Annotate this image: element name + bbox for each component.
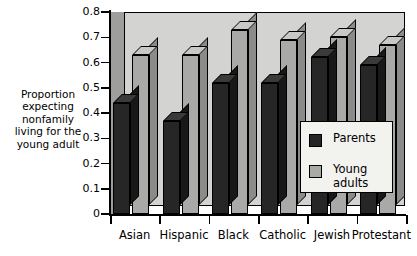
bar-parents-hispanic bbox=[163, 112, 189, 214]
y-axis-tick bbox=[101, 87, 109, 89]
bar-front bbox=[212, 83, 229, 214]
bar-front bbox=[113, 103, 130, 214]
bar-parents-asian bbox=[113, 94, 139, 214]
chart-figure: Proportion expecting nonfamily living fo… bbox=[0, 0, 417, 256]
y-axis-tick-label: 0.8 bbox=[66, 6, 100, 17]
bar-side bbox=[248, 12, 257, 205]
y-axis-tick bbox=[101, 62, 109, 64]
y-axis-tick-labels: 00.10.20.30.40.50.60.70.8 bbox=[60, 0, 100, 256]
x-axis-tick bbox=[307, 215, 309, 224]
y-axis-tick bbox=[101, 163, 109, 165]
x-axis-tick bbox=[159, 215, 161, 224]
y-axis-tick bbox=[101, 188, 109, 190]
bar-front bbox=[163, 121, 180, 214]
y-axis-tick-label: 0.7 bbox=[66, 31, 100, 42]
bar-side bbox=[229, 65, 238, 205]
bar-parents-black bbox=[212, 74, 238, 214]
y-axis-tick bbox=[101, 37, 109, 39]
y-axis-tick bbox=[101, 112, 109, 114]
legend-label-parents: Parents bbox=[333, 132, 376, 146]
x-axis-tick bbox=[258, 215, 260, 224]
y-axis-tick bbox=[101, 213, 109, 215]
x-axis-tick bbox=[357, 215, 359, 224]
y-axis-line bbox=[109, 10, 111, 216]
x-axis-tick-label: Protestant bbox=[345, 228, 417, 242]
y-axis-tick-label: 0 bbox=[66, 208, 100, 219]
y-axis-tick-label: 0.1 bbox=[66, 183, 100, 194]
bar-side bbox=[199, 37, 208, 205]
legend: Parents Young adults bbox=[300, 121, 393, 193]
y-axis-tick bbox=[101, 138, 109, 140]
bar-parents-catholic bbox=[261, 74, 287, 214]
y-axis-tick-label: 0.4 bbox=[66, 107, 100, 118]
y-axis-tick-label: 0.3 bbox=[66, 132, 100, 143]
y-axis-tick-label: 0.2 bbox=[66, 158, 100, 169]
bar-side bbox=[278, 65, 287, 205]
y-axis-tick-label: 0.6 bbox=[66, 57, 100, 68]
y-axis-tick bbox=[101, 11, 109, 13]
y-axis-tick-label: 0.5 bbox=[66, 82, 100, 93]
x-axis-tick bbox=[406, 215, 408, 224]
bar-side bbox=[149, 37, 158, 205]
x-axis-tick bbox=[110, 215, 112, 224]
legend-swatch-young-adults bbox=[309, 165, 322, 178]
bar-front bbox=[261, 83, 278, 214]
x-axis-tick bbox=[209, 215, 211, 224]
legend-swatch-parents bbox=[309, 134, 322, 147]
bar-side bbox=[396, 27, 405, 205]
bar-side bbox=[130, 85, 139, 205]
legend-label-young-adults: Young adults bbox=[333, 163, 368, 190]
